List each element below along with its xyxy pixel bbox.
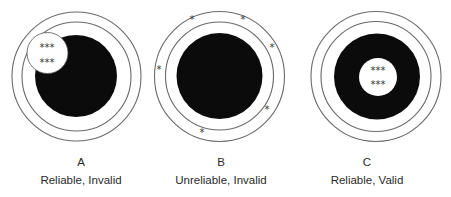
target-b-hit-1: * (190, 14, 195, 25)
target-b-bullseye (177, 33, 263, 119)
target-b-hit-5: * (265, 104, 270, 115)
target-a-label: Reliable, Invalid (6, 175, 156, 187)
target-c-label: Reliable, Valid (292, 175, 442, 187)
target-b: * * * * * * (155, 12, 285, 142)
target-c: *** *** (311, 12, 441, 142)
target-c-letter: C (292, 157, 442, 169)
target-a: *** *** (12, 12, 141, 141)
target-a-hits-row-2: *** (40, 57, 55, 68)
target-b-hit-4: * (157, 64, 162, 75)
target-a-hits-row-1: *** (40, 42, 55, 53)
target-a-letter: A (6, 157, 156, 169)
target-b-hit-3: * (270, 42, 275, 53)
target-b-hit-6: * (200, 127, 205, 138)
target-c-hits-row-1: *** (371, 65, 386, 76)
target-b-hit-2: * (241, 14, 246, 25)
target-b-label: Unreliable, Invalid (146, 175, 296, 187)
target-c-hits-row-2: *** (371, 79, 386, 90)
target-b-letter: B (146, 157, 296, 169)
